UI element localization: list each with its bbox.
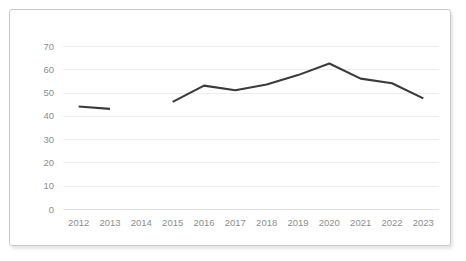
series-line: [79, 107, 110, 109]
y-axis-tick-label: 0: [49, 204, 54, 215]
chart-svg: 010203040506070 201220132014201520162017…: [10, 10, 452, 247]
y-axis-tick-label: 50: [43, 87, 54, 98]
x-axis-tick-label: 2017: [225, 217, 246, 228]
x-axis-tick-label: 2020: [319, 217, 340, 228]
x-axis-tick-label: 2012: [68, 217, 89, 228]
x-axis-tick-labels: 2012201320142015201620172018201920202021…: [68, 217, 434, 228]
x-axis-tick-label: 2021: [350, 217, 371, 228]
x-axis-tick-label: 2018: [256, 217, 277, 228]
line-chart: 010203040506070 201220132014201520162017…: [10, 10, 452, 247]
x-axis-tick-label: 2016: [193, 217, 214, 228]
x-axis-tick-label: 2019: [287, 217, 308, 228]
y-axis-tick-label: 10: [43, 180, 54, 191]
y-axis-tick-labels: 010203040506070: [43, 41, 54, 215]
y-axis-tick-label: 70: [43, 41, 54, 52]
y-axis-tick-label: 20: [43, 157, 54, 168]
x-axis-tick-label: 2013: [99, 217, 120, 228]
y-axis-tick-label: 60: [43, 64, 54, 75]
chart-card: 010203040506070 201220132014201520162017…: [9, 9, 451, 246]
x-axis-tick-label: 2015: [162, 217, 183, 228]
y-axis-tick-label: 40: [43, 110, 54, 121]
gridlines-group: [63, 47, 439, 210]
x-axis-tick-label: 2022: [381, 217, 402, 228]
x-axis-tick-label: 2023: [413, 217, 434, 228]
y-axis-tick-label: 30: [43, 134, 54, 145]
x-axis-tick-label: 2014: [131, 217, 152, 228]
series-group: [79, 63, 424, 108]
